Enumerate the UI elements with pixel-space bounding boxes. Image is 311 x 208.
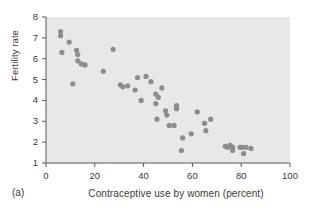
data-point	[132, 87, 137, 92]
x-tick-label: 20	[83, 170, 107, 181]
y-tick-label: 5	[22, 74, 38, 85]
data-point	[75, 52, 80, 57]
x-tick-label: 40	[132, 170, 156, 181]
data-point	[202, 121, 207, 126]
y-tick-label: 8	[22, 11, 38, 22]
data-point	[58, 33, 63, 38]
data-point	[111, 47, 116, 52]
y-tick-label: 4	[22, 94, 38, 105]
x-axis-title: Contraceptive use by women (percent)	[56, 188, 296, 199]
x-tick-label: 100	[278, 170, 302, 181]
data-point	[172, 123, 177, 128]
data-point	[164, 112, 169, 117]
y-axis-title: Fertility rate	[9, 6, 20, 106]
plot-background	[46, 17, 290, 163]
data-point	[101, 69, 106, 74]
data-point	[174, 106, 179, 111]
data-point	[135, 75, 140, 80]
y-tick-label: 6	[22, 53, 38, 64]
panel-label: (a)	[12, 187, 24, 198]
data-point	[120, 84, 125, 89]
data-point	[70, 81, 75, 86]
data-point	[189, 131, 194, 136]
data-point	[59, 50, 64, 55]
data-point	[241, 151, 246, 156]
data-point	[248, 146, 253, 151]
data-point	[179, 148, 184, 153]
x-tick-label: 80	[229, 170, 253, 181]
data-point	[82, 62, 87, 67]
data-point	[154, 117, 159, 122]
x-tick-label: 60	[180, 170, 204, 181]
data-point	[139, 98, 144, 103]
scatter-plot-figure: 12345678 020406080100 Fertility rate Con…	[0, 0, 311, 208]
data-point	[180, 135, 185, 140]
y-tick-label: 7	[22, 32, 38, 43]
data-point	[243, 145, 248, 150]
data-point	[203, 128, 208, 133]
data-point	[208, 117, 213, 122]
data-point	[67, 39, 72, 44]
y-tick-label: 2	[22, 136, 38, 147]
data-point	[153, 101, 158, 106]
data-point	[148, 79, 153, 84]
data-point	[143, 74, 148, 79]
data-point	[156, 95, 161, 100]
y-tick-label: 1	[22, 157, 38, 168]
x-tick-label: 0	[34, 170, 58, 181]
data-point	[195, 109, 200, 114]
data-point	[159, 85, 164, 90]
data-point	[230, 148, 235, 153]
data-point	[125, 83, 130, 88]
data-point	[167, 123, 172, 128]
y-tick-label: 3	[22, 115, 38, 126]
